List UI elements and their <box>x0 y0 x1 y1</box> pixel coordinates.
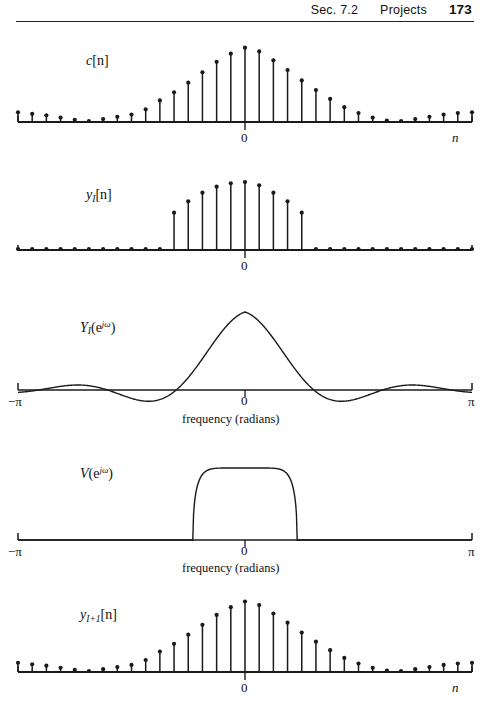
axis-right-label-YI: π <box>468 395 475 408</box>
panel-yI1-n: yI+1[n] 0 n <box>0 582 490 702</box>
page-number: 173 <box>449 2 472 17</box>
axis-left-label-YI: −π <box>8 395 22 408</box>
label-base: Y <box>80 320 88 335</box>
label-base: V <box>80 466 89 481</box>
axis-left-label-V: −π <box>8 545 22 558</box>
panel-label-V-ejw: V(ejω) <box>80 466 113 481</box>
panel-label-c-n: c[n] <box>86 54 109 68</box>
origin-label-V: 0 <box>241 544 248 557</box>
running-head-section: Sec. 7.2 <box>311 3 358 17</box>
panel-YI-ejw: YI(ejω) 0 −π π frequency (radians) <box>0 294 490 424</box>
origin-label-c-n: 0 <box>241 131 248 144</box>
panel-V-ejw: V(ejω) 0 −π π frequency (radians) <box>0 444 490 572</box>
header-divider <box>16 21 474 22</box>
axis-right-label-V: π <box>468 545 475 558</box>
label-exponent: jω <box>99 465 108 475</box>
axis-label-n-yI1: n <box>452 681 459 694</box>
label-tail: [n] <box>92 53 108 68</box>
panel-c-n: c[n] 0 n <box>0 30 490 148</box>
label-tail: [n] <box>101 607 117 622</box>
axis-label-n-c: n <box>452 131 459 144</box>
label-exponent: jω <box>102 319 111 329</box>
origin-label-yI1-n: 0 <box>241 681 248 694</box>
origin-label-YI: 0 <box>241 394 248 407</box>
label-close-paren: ) <box>108 466 113 481</box>
panel-label-YI-ejw: YI(ejω) <box>80 320 115 337</box>
caption-frequency-V: frequency (radians) <box>182 562 280 575</box>
label-close-paren: ) <box>111 320 116 335</box>
label-tail: [n] <box>95 187 111 202</box>
label-subscript: I+1 <box>86 614 100 624</box>
running-head: Sec. 7.2 Projects 173 <box>0 0 490 26</box>
panel-yI-n: yI[n] 0 <box>0 162 490 274</box>
running-head-text: Sec. 7.2 Projects 173 <box>311 2 472 17</box>
label-tail: (e <box>91 320 102 335</box>
running-head-chapter-title: Projects <box>380 3 427 17</box>
origin-label-yI-n: 0 <box>241 259 248 272</box>
caption-frequency-YI: frequency (radians) <box>182 413 280 426</box>
panel-label-yI-n: yI[n] <box>86 188 112 204</box>
panel-label-yI1-n: yI+1[n] <box>80 608 117 624</box>
label-tail: (e <box>89 466 100 481</box>
